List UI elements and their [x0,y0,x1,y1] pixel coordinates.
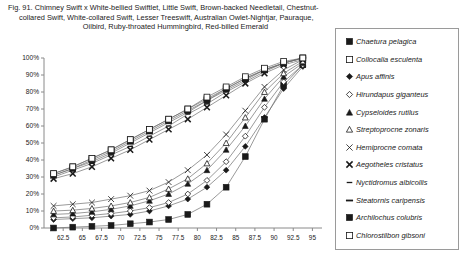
legend-item-hirundapus-giganteus[interactable]: Hirundapus giganteus [336,86,458,104]
svg-text:95: 95 [309,234,317,241]
series-streptoprocne-zonaris [51,59,306,214]
svg-text:92.5: 92.5 [287,234,300,241]
series-hemiprocne-comata [51,57,306,209]
svg-text:60%: 60% [26,122,39,129]
line-chart: 0%10%20%30%40%50%60%70%80%90%100%62.5656… [0,50,332,266]
legend-item-label: Chaetura pelagica [356,37,416,46]
legend-item-label: Nyctidromus albicollis [356,178,428,187]
legend-item-label: Steatornis caripensis [356,196,425,205]
svg-text:87.5: 87.5 [249,234,262,241]
series-hirundapus-giganteus [51,62,306,221]
filled-square-icon [343,36,356,47]
dash-wide-icon [343,195,356,206]
x-thin-icon [343,142,356,153]
open-square-2-icon [343,230,356,241]
svg-text:90%: 90% [26,71,39,78]
svg-text:90: 90 [271,234,279,241]
svg-text:30%: 30% [26,173,39,180]
svg-text:80%: 80% [26,88,39,95]
legend-item-apus-affinis[interactable]: Apus affinis [336,68,458,86]
legend-item-chlorostilbon-gibsoni[interactable]: Chlorostilbon gibsoni [336,227,458,245]
legend-item-label: Hirundapus giganteus [356,90,428,99]
svg-text:70: 70 [117,234,125,241]
svg-text:85: 85 [232,234,240,241]
legend-item-cypseloides-rutilus[interactable]: Cypseloides rutilus [336,103,458,121]
svg-text:100%: 100% [22,54,39,61]
legend-item-label: Hemiprocne comata [356,143,422,152]
svg-text:72.5: 72.5 [134,234,147,241]
svg-text:62.5: 62.5 [57,234,70,241]
plot-area: 0%10%20%30%40%50%60%70%80%90%100%62.5656… [0,50,332,266]
series-cypseloides-rutilus [51,60,306,217]
open-diamond-icon [343,89,356,100]
svg-text:82.5: 82.5 [210,234,223,241]
svg-text:20%: 20% [26,190,39,197]
figure-root: Fig. 91. Chimney Swift x White-bellied S… [0,0,461,266]
svg-text:10%: 10% [26,207,39,214]
open-square-icon [343,54,356,65]
legend-item-label: Archilochus colubris [356,213,422,222]
legend-item-label: Streptoprocne zonaris [356,125,429,134]
filled-diamond-icon [343,71,356,82]
legend-item-label: Aegotheles cristatus [356,160,423,169]
legend-item-collocalia-esculenta[interactable]: Collocalia esculenta [336,51,458,69]
svg-text:50%: 50% [26,139,39,146]
legend-item-label: Collocalia esculenta [356,55,422,64]
legend-item-steatornis-caripensis[interactable]: Steatornis caripensis [336,191,458,209]
svg-text:0%: 0% [29,224,39,231]
legend-item-archilochus-colubris[interactable]: Archilochus colubris [336,209,458,227]
svg-text:75: 75 [155,234,163,241]
chart-legend: Chaetura pelagicaCollocalia esculentaApu… [335,28,459,250]
series-chaetura-pelagica [51,62,306,231]
caption-line-1: Fig. 91. Chimney Swift x White-bellied S… [0,3,345,13]
caption-line-2: collared Swift, White-collared Swift, Le… [0,13,345,23]
caption-line-3: Oilbird, Ruby-throated Hummingbird, Red-… [0,22,345,32]
legend-item-label: Cypseloides rutilus [356,108,418,117]
legend-item-chaetura-pelagica[interactable]: Chaetura pelagica [336,33,458,51]
svg-text:40%: 40% [26,156,39,163]
legend-item-nyctidromus-albicollis[interactable]: Nyctidromus albicollis [336,174,458,192]
dash-small-icon [343,177,356,188]
legend-item-hemiprocne-comata[interactable]: Hemiprocne comata [336,139,458,157]
svg-text:67.5: 67.5 [95,234,108,241]
svg-text:77.5: 77.5 [172,234,185,241]
svg-text:70%: 70% [26,105,39,112]
legend-item-streptoprocne-zonaris[interactable]: Streptoprocne zonaris [336,121,458,139]
svg-text:65: 65 [79,234,87,241]
open-triangle-icon [343,124,356,135]
svg-text:80: 80 [194,234,202,241]
filled-triangle-icon [343,107,356,118]
filled-square-2-icon [343,212,356,223]
x-bold-icon [343,159,356,170]
legend-item-label: Chlorostilbon gibsoni [356,231,425,240]
figure-caption: Fig. 91. Chimney Swift x White-bellied S… [0,3,345,32]
legend-item-label: Apus affinis [356,72,394,81]
legend-item-aegotheles-cristatus[interactable]: Aegotheles cristatus [336,156,458,174]
